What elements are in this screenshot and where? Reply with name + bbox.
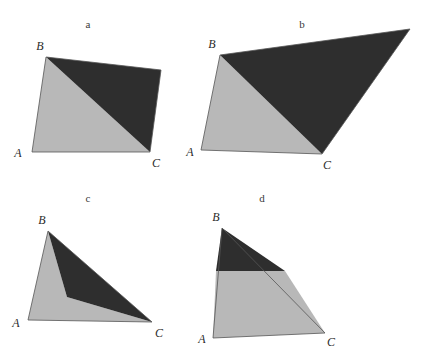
- panel-c-vertex-label-A: A: [11, 316, 20, 330]
- panel-b-vertex-label-B: B: [208, 37, 216, 51]
- panel-d-vertex-label-B: B: [212, 210, 220, 224]
- panel-a-vertex-label-A: A: [13, 146, 22, 160]
- panel-a-vertex-label-C: C: [152, 156, 161, 170]
- panel-d-vertex-label-C: C: [327, 335, 336, 348]
- panel-c-label: c: [86, 192, 91, 204]
- panel-a-vertex-label-B: B: [36, 39, 44, 53]
- panel-b-label: b: [299, 18, 305, 30]
- figure-canvas: a A B C b A B C c A B C: [0, 0, 426, 348]
- panel-d-label: d: [259, 192, 265, 204]
- panel-d-vertex-label-A: A: [197, 332, 206, 346]
- panel-b-vertex-label-A: A: [185, 145, 194, 159]
- panel-a-label: a: [86, 18, 91, 30]
- panel-b-vertex-label-C: C: [323, 158, 332, 172]
- panel-c-vertex-label-B: B: [38, 213, 46, 227]
- figure-root: a A B C b A B C c A B C: [0, 0, 426, 348]
- panel-c-vertex-label-C: C: [155, 326, 164, 340]
